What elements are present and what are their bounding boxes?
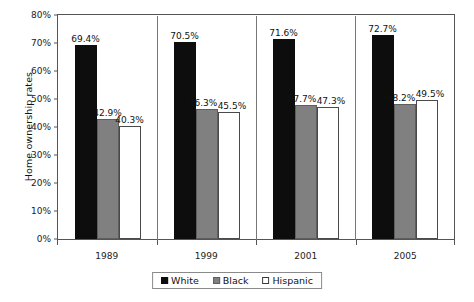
bar-set: 69.4%42.9%40.3% — [75, 15, 141, 239]
bar-black-1999: 46.3% — [196, 109, 218, 239]
bar-group-1999: 70.5%46.3%45.5% — [157, 15, 256, 239]
legend-item-hispanic[interactable]: Hispanic — [262, 275, 312, 286]
bar-value-label: 45.5% — [218, 101, 247, 111]
y-axis-tick-label: 80% — [31, 10, 51, 20]
bar-hispanic-1999: 45.5% — [218, 112, 240, 239]
bar-hispanic-2001: 47.3% — [317, 107, 339, 239]
bar-white-1989: 69.4% — [75, 45, 97, 239]
bar-group-2005: 72.7%48.2%49.5% — [355, 15, 454, 239]
x-axis-tick-mark — [356, 240, 357, 245]
group-separator — [157, 16, 158, 240]
bar-value-label: 49.5% — [416, 89, 445, 99]
bar-white-2001: 71.6% — [273, 39, 295, 239]
legend-item-label: White — [171, 275, 199, 286]
x-axis-tick-label: 1989 — [95, 251, 118, 261]
x-axis-tick-label: 1999 — [195, 251, 218, 261]
x-axis: 1989199920012005 — [57, 240, 455, 266]
y-axis-tick-label: 0% — [37, 234, 51, 244]
bar-value-label: 72.7% — [368, 24, 397, 34]
y-axis-tick-label: 10% — [31, 206, 51, 216]
x-axis-tick-2005: 2005 — [356, 240, 456, 266]
plot-area: 0%10%20%30%40%50%60%70%80% 69.4%42.9%40.… — [57, 14, 455, 240]
bar-group-2001: 71.6%47.7%47.3% — [256, 15, 355, 239]
legend-item-label: Hispanic — [272, 275, 312, 286]
bar-value-label: 69.4% — [71, 34, 100, 44]
bar-value-label: 70.5% — [170, 31, 199, 41]
y-axis-tick-label: 40% — [31, 122, 51, 132]
x-axis-end-tick-mark — [454, 240, 455, 245]
bar-black-2001: 47.7% — [295, 105, 317, 239]
bar-white-2005: 72.7% — [372, 35, 394, 239]
bar-group-1989: 69.4%42.9%40.3% — [58, 15, 157, 239]
x-axis-tick-label: 2005 — [394, 251, 417, 261]
x-axis-tick-mark — [256, 240, 257, 245]
x-axis-tick-1999: 1999 — [157, 240, 257, 266]
bar-value-label: 40.3% — [115, 115, 144, 125]
bar-group-container: 69.4%42.9%40.3%70.5%46.3%45.5%71.6%47.7%… — [58, 15, 454, 239]
bar-value-label: 71.6% — [269, 28, 298, 38]
bar-hispanic-1989: 40.3% — [119, 126, 141, 239]
x-axis-tick-mark — [157, 240, 158, 245]
filled-black-square-icon — [161, 277, 168, 284]
filled-gray-square-icon — [213, 277, 220, 284]
outlined-white-square-icon — [262, 277, 269, 284]
legend-item-label: Black — [223, 275, 249, 286]
x-axis-tick-label: 2001 — [294, 251, 317, 261]
y-axis-tick-label: 70% — [31, 38, 51, 48]
group-separator — [256, 16, 257, 240]
y-axis-tick-label: 50% — [31, 94, 51, 104]
bar-value-label: 42.9% — [93, 108, 122, 118]
y-axis-tick-label: 60% — [31, 66, 51, 76]
bar-value-label: 47.3% — [317, 96, 346, 106]
bar-set: 70.5%46.3%45.5% — [174, 15, 240, 239]
y-axis-tick-label: 20% — [31, 178, 51, 188]
bar-black-1989: 42.9% — [97, 119, 119, 239]
bar-set: 72.7%48.2%49.5% — [372, 15, 438, 239]
bar-black-2005: 48.2% — [394, 104, 416, 239]
x-axis-tick-1989: 1989 — [57, 240, 157, 266]
group-separator — [355, 16, 356, 240]
x-axis-tick-2001: 2001 — [256, 240, 356, 266]
y-axis-tick-label: 30% — [31, 150, 51, 160]
chart-root: Home ownership rates 0%10%20%30%40%50%60… — [0, 0, 474, 302]
bar-hispanic-2005: 49.5% — [416, 100, 438, 239]
bar-white-1999: 70.5% — [174, 42, 196, 239]
legend-item-white[interactable]: White — [161, 275, 199, 286]
chart-legend: WhiteBlackHispanic — [152, 272, 322, 289]
x-axis-tick-mark — [57, 240, 58, 245]
bar-set: 71.6%47.7%47.3% — [273, 15, 339, 239]
legend-item-black[interactable]: Black — [213, 275, 249, 286]
